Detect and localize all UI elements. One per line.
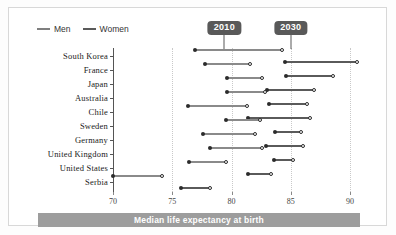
women-marker-2030[interactable] <box>305 102 309 106</box>
dumbbell-segment-2030 <box>275 131 301 133</box>
men-marker-2030[interactable] <box>246 172 250 176</box>
women-marker-2030[interactable] <box>312 88 316 92</box>
men-marker-2010[interactable] <box>225 90 229 94</box>
women-marker-2030[interactable] <box>291 158 295 162</box>
y-tick <box>110 168 114 169</box>
y-tick <box>110 56 114 57</box>
women-marker-2010[interactable] <box>260 76 264 80</box>
men-marker-2030[interactable] <box>283 60 287 64</box>
men-marker-2010[interactable] <box>224 118 228 122</box>
y-tick <box>110 182 114 183</box>
men-marker-2010[interactable] <box>201 132 205 136</box>
x-axis-caption: Median life expectancy at birth <box>134 215 264 225</box>
dumbbell-segment-2030 <box>285 61 357 63</box>
dumbbell-segment-2010 <box>205 63 250 65</box>
dumbbell-segment-2030 <box>266 145 303 147</box>
x-tick-85 <box>291 192 292 195</box>
women-marker-2030[interactable] <box>299 130 303 134</box>
women-marker-2010[interactable] <box>160 174 164 178</box>
year-badge-2010[interactable]: 2010 <box>208 21 241 35</box>
y-tick <box>110 70 114 71</box>
men-marker-2030[interactable] <box>272 158 276 162</box>
women-marker-2010[interactable] <box>245 104 249 108</box>
category-label-serbia: Serbia <box>85 177 108 187</box>
y-tick <box>110 126 114 127</box>
men-marker-2030[interactable] <box>284 74 288 78</box>
chart-card: MenWomen 7075808590South KoreaFranceJapa… <box>8 7 387 226</box>
x-tick-80 <box>232 192 233 195</box>
category-label-chile: Chile <box>89 107 108 117</box>
dumbbell-segment-2030 <box>248 173 271 175</box>
women-marker-2010[interactable] <box>263 90 267 94</box>
dumbbell-segment-2010 <box>113 175 162 177</box>
category-label-france: France <box>84 65 108 75</box>
category-label-south-korea: South Korea <box>63 51 108 61</box>
dumbbell-segment-2010 <box>227 91 265 93</box>
women-marker-2010[interactable] <box>248 62 252 66</box>
category-label-sweden: Sweden <box>80 121 108 131</box>
x-tick-70 <box>113 192 114 195</box>
y-tick <box>110 140 114 141</box>
women-marker-2010[interactable] <box>258 118 262 122</box>
gridline-85 <box>291 48 292 192</box>
women-marker-2030[interactable] <box>208 186 212 190</box>
category-label-australia: Australia <box>75 93 108 103</box>
men-marker-2010[interactable] <box>193 48 197 52</box>
dumbbell-segment-2010 <box>189 161 226 163</box>
dumbbell-segment-2030 <box>181 187 211 189</box>
men-marker-2010[interactable] <box>203 62 207 66</box>
year-badge-stem-2010 <box>224 35 225 49</box>
dumbbell-segment-2010 <box>210 147 262 149</box>
men-marker-2010[interactable] <box>208 146 212 150</box>
women-marker-2010[interactable] <box>253 132 257 136</box>
men-marker-2030[interactable] <box>179 186 183 190</box>
women-marker-2030[interactable] <box>269 172 273 176</box>
x-tick-label: 85 <box>287 197 295 206</box>
dumbbell-segment-2010 <box>203 133 255 135</box>
men-marker-2030[interactable] <box>264 144 268 148</box>
dumbbell-segment-2010 <box>195 49 283 51</box>
plot-area: 7075808590South KoreaFranceJapanAustrali… <box>9 8 388 227</box>
x-tick-label: 75 <box>168 197 176 206</box>
year-badge-stem-2030 <box>290 35 291 49</box>
category-label-united-kingdom: United Kingdom <box>48 149 108 159</box>
women-marker-2030[interactable] <box>355 60 359 64</box>
x-tick-90 <box>350 192 351 195</box>
women-marker-2010[interactable] <box>280 48 284 52</box>
dumbbell-segment-2030 <box>267 89 314 91</box>
y-tick <box>110 112 114 113</box>
men-marker-2010[interactable] <box>225 76 229 80</box>
dumbbell-segment-2010 <box>226 119 260 121</box>
x-tick-label: 90 <box>346 197 354 206</box>
gridline-90 <box>350 48 351 192</box>
men-marker-2010[interactable] <box>186 104 190 108</box>
dumbbell-segment-2010 <box>188 105 247 107</box>
men-marker-2030[interactable] <box>267 102 271 106</box>
women-marker-2010[interactable] <box>224 160 228 164</box>
y-tick <box>110 84 114 85</box>
category-label-united-states: United States <box>60 163 108 173</box>
x-axis-caption-bar: Median life expectancy at birth <box>38 213 360 227</box>
dumbbell-segment-2010 <box>227 77 263 79</box>
women-marker-2030[interactable] <box>331 74 335 78</box>
x-tick-label: 80 <box>228 197 236 206</box>
year-badge-2030[interactable]: 2030 <box>274 21 307 35</box>
women-marker-2030[interactable] <box>301 144 305 148</box>
men-marker-2010[interactable] <box>187 160 191 164</box>
x-tick-label: 70 <box>109 197 117 206</box>
women-marker-2010[interactable] <box>260 146 264 150</box>
men-marker-2010[interactable] <box>111 174 115 178</box>
men-marker-2030[interactable] <box>273 130 277 134</box>
y-tick <box>110 154 114 155</box>
dumbbell-segment-2030 <box>286 75 333 77</box>
dumbbell-segment-2030 <box>269 103 307 105</box>
gridline-75 <box>172 48 173 192</box>
category-label-japan: Japan <box>88 79 108 89</box>
chart-frame: MenWomen 7075808590South KoreaFranceJapa… <box>0 0 396 235</box>
category-label-germany: Germany <box>75 135 108 145</box>
x-tick-75 <box>172 192 173 195</box>
y-tick <box>110 98 114 99</box>
women-marker-2030[interactable] <box>308 116 312 120</box>
